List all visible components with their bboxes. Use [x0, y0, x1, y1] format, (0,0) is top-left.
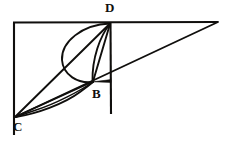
vertex-label-C: C [13, 120, 22, 133]
vertical-through-D [111, 23, 112, 114]
top-horizontal-frame [13, 22, 218, 23]
geometric-figure: D B C [0, 0, 230, 147]
vertex-label-D: D [105, 1, 114, 14]
vertex-label-B: B [92, 87, 101, 100]
chord-C-to-B [15, 82, 93, 118]
figure-canvas [0, 0, 230, 147]
outer-arc-D-to-B [62, 24, 110, 83]
